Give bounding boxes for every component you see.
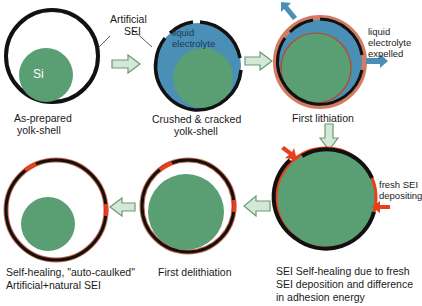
liquid-electrolyte-label-2: electrolyte xyxy=(172,38,215,49)
artificial-sei-label-1: Artificial xyxy=(110,13,147,25)
caption-self-healing-3: in adhesion energy xyxy=(276,291,365,303)
arrow-right-1 xyxy=(112,55,140,73)
stage-as-prepared xyxy=(6,10,98,102)
caption-self-healing-1: SEI Self-healing due to fresh xyxy=(276,265,410,277)
arrow-down xyxy=(320,124,338,150)
si-core xyxy=(148,174,224,250)
artificial-sei-label-2: SEI xyxy=(124,25,141,37)
caption-auto-caulked-2: Artificial+natural SEI xyxy=(6,279,101,291)
caption-as-prepared-1: As-prepared xyxy=(14,112,72,124)
fresh-sei-arrow-top xyxy=(281,146,297,160)
electrolyte-expelled-arrow-up xyxy=(281,2,297,20)
expelled-label-2: electrolyte xyxy=(368,37,411,48)
stage-auto-caulked xyxy=(6,160,106,260)
fresh-sei-label-1: fresh SEI xyxy=(379,179,418,190)
yolk-shell-self-healing-diagram: Si As-prepared yolk-shell Artificial SEI… xyxy=(0,0,422,306)
fresh-sei-label-2: depositing xyxy=(379,190,422,201)
arrow-right-2 xyxy=(245,52,272,70)
expelled-label-3: expelled xyxy=(368,48,403,59)
si-core xyxy=(19,48,73,102)
si-core xyxy=(21,197,75,251)
liquid-electrolyte-label-1: liquid xyxy=(172,27,194,38)
arrow-left-1 xyxy=(244,196,270,216)
caption-self-healing-2: SEI deposition and difference xyxy=(276,278,413,290)
artificial-sei-leader-left xyxy=(98,36,110,48)
caption-crushed-1: Crushed & cracked xyxy=(152,113,241,125)
expelled-label-1: liquid xyxy=(368,26,390,37)
stage-crushed xyxy=(155,22,241,110)
caption-first-delithiation: First delithiation xyxy=(158,266,232,278)
caption-auto-caulked-1: Self-healing, "auto-caulked" xyxy=(6,266,135,278)
caption-crushed-2: yolk-shell xyxy=(174,125,218,137)
si-label: Si xyxy=(33,68,44,80)
caption-first-lithiation: First lithiation xyxy=(292,112,354,124)
stage-first-delithiation xyxy=(142,160,234,252)
arrow-left-2 xyxy=(110,198,135,216)
stage-self-healing xyxy=(274,146,390,249)
caption-as-prepared-2: yolk-shell xyxy=(17,124,61,136)
